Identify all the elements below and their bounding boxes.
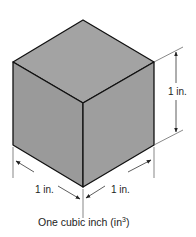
caption: One cubic inch (in3): [38, 216, 129, 228]
caption-text: One cubic inch (in: [38, 216, 122, 228]
height-label: 1 in.: [168, 86, 187, 97]
left-width-label: 1 in.: [35, 184, 54, 195]
left-arrow-2: [58, 186, 80, 199]
right-depth-label: 1 in.: [111, 184, 130, 195]
right-arrow-1: [128, 160, 151, 172]
cube-diagram: 1 in. 1 in. 1 in. One cubic inch (in3): [0, 0, 196, 237]
caption-suffix: ): [126, 216, 130, 228]
extension-line-bottom: [154, 130, 183, 145]
extension-line-top: [154, 47, 183, 62]
right-arrow-2: [86, 186, 105, 198]
left-arrow-1: [16, 161, 34, 172]
height-dimension: 1 in.: [154, 47, 187, 145]
cube: [13, 20, 154, 187]
